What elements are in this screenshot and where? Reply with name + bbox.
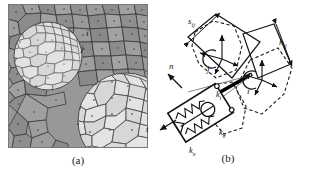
figure-container: i j (a)	[0, 0, 312, 177]
contact-model-diagram: j i	[158, 2, 306, 152]
label-axis-t: t	[146, 125, 149, 134]
panel-b: j i	[158, 2, 306, 174]
voronoi-micrograph: i j	[8, 4, 148, 148]
label-ktheta: kθ	[219, 128, 226, 139]
body-i-label: i	[247, 86, 250, 96]
current-block-i-solid	[243, 24, 291, 78]
axis-n-arrow	[168, 74, 182, 88]
label-kt: kt	[216, 90, 221, 101]
body-j-label: j	[206, 64, 210, 74]
label-axis-n: n	[169, 62, 174, 71]
contact-model-svg: j i	[158, 2, 306, 152]
micrograph-body: i j	[8, 4, 148, 148]
axis-t-arrow	[160, 120, 176, 130]
panel-a: i j (a)	[8, 4, 148, 152]
label-sij: sij	[188, 17, 195, 29]
label-hij: hij	[279, 38, 287, 50]
panel-b-caption: (b)	[158, 152, 298, 164]
panel-a-caption: (a)	[8, 154, 148, 166]
body-j-marker: j	[200, 35, 238, 74]
voronoi-svg: i j	[8, 4, 148, 148]
cell-label-j: j	[80, 43, 84, 53]
